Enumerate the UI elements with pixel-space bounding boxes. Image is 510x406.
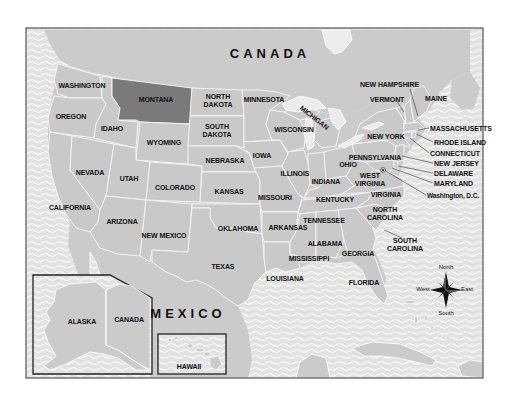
label-oregon: OREGON: [56, 113, 87, 121]
compass-south: South: [438, 310, 454, 316]
label-minnesota: MINNESOTA: [244, 96, 285, 104]
label-nevada: NEVADA: [76, 169, 104, 177]
label-south-dakota-1: SOUTH: [205, 123, 229, 131]
label-wisconsin: WISCONSIN: [274, 126, 314, 134]
label-ohio: OHIO: [339, 161, 357, 169]
label-texas: TEXAS: [212, 263, 235, 271]
label-arkansas: ARKANSAS: [269, 224, 308, 232]
label-kentucky: KENTUCKY: [316, 196, 354, 204]
label-washington: WASHINGTON: [58, 82, 105, 90]
label-illinois: ILLINOIS: [281, 170, 310, 178]
label-colorado: COLORADO: [155, 184, 195, 192]
label-wyoming: WYOMING: [147, 139, 181, 147]
label-capital: Washington, D.C.: [427, 192, 479, 200]
compass-west: West: [416, 286, 430, 292]
label-iowa: IOWA: [253, 152, 271, 160]
label-new-mexico: NEW MEXICO: [142, 232, 187, 240]
label-mexico: MEXICO: [150, 306, 225, 321]
label-vermont: VERMONT: [370, 96, 404, 104]
label-rhode-island: RHODE ISLAND: [434, 139, 486, 147]
label-oklahoma: OKLAHOMA: [218, 225, 258, 233]
label-new-hampshire: NEW HAMPSHIRE: [360, 81, 419, 89]
label-north-dakota-2: DAKOTA: [204, 101, 233, 109]
compass-east: East: [461, 286, 473, 292]
compass-north: North: [439, 264, 454, 270]
label-delaware: DELAWARE: [434, 170, 473, 178]
label-montana: MONTANA: [139, 96, 174, 104]
label-canada-inset: CANADA: [114, 316, 144, 324]
label-indiana: INDIANA: [312, 178, 340, 186]
label-connecticut: CONNECTICUT: [430, 150, 480, 158]
label-utah: UTAH: [120, 175, 139, 183]
label-pennsylvania: PENNSYLVANIA: [349, 154, 402, 162]
label-north-dakota-1: NORTH: [206, 93, 230, 101]
label-arizona: ARIZONA: [106, 218, 137, 226]
label-florida: FLORIDA: [349, 279, 379, 287]
label-maryland: MARYLAND: [434, 180, 473, 188]
label-alaska: ALASKA: [68, 318, 97, 326]
label-hawaii: HAWAII: [177, 363, 201, 371]
label-south-carolina-1: SOUTH: [393, 237, 417, 245]
label-west-virginia-2: VIRGINIA: [355, 180, 385, 188]
label-west-virginia-1: WEST: [360, 172, 380, 180]
label-kansas: KANSAS: [215, 188, 244, 196]
label-virginia: VIRGINIA: [371, 191, 401, 199]
label-south-carolina-2: CAROLINA: [387, 245, 423, 253]
label-north-carolina-2: CAROLINA: [367, 214, 403, 222]
label-new-jersey: NEW JERSEY: [434, 160, 479, 168]
labels-layer: .t { position:absolute; font-weight:bold…: [0, 0, 510, 406]
label-california: CALIFORNIA: [49, 204, 91, 212]
label-alabama: ALABAMA: [308, 240, 343, 248]
label-maine: MAINE: [425, 95, 447, 103]
label-louisiana: LOUISIANA: [266, 275, 304, 283]
label-missouri: MISSOURI: [258, 194, 292, 202]
label-south-dakota-2: DAKOTA: [203, 131, 232, 139]
label-mississippi: MISSISSIPPI: [289, 255, 330, 263]
label-tennessee: TENNESSEE: [303, 217, 345, 225]
label-nebraska: NEBRASKA: [206, 157, 245, 165]
label-idaho: IDAHO: [101, 125, 123, 133]
label-north-carolina-1: NORTH: [373, 206, 397, 214]
label-new-york: NEW YORK: [367, 133, 405, 141]
label-georgia: GEORGIA: [342, 250, 374, 258]
label-canada: CANADA: [230, 46, 310, 61]
label-massachusetts: MASSACHUSETTS: [430, 125, 492, 133]
